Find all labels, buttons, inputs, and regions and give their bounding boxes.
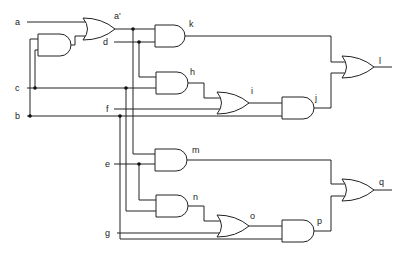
input-label-b: b <box>15 111 20 121</box>
and-gate-m <box>155 149 187 171</box>
gate-label-n: n <box>193 192 198 202</box>
and-gate-p <box>282 220 314 242</box>
wire-j-to-l <box>314 73 345 108</box>
wire-d-to-h <box>139 42 156 77</box>
and-gate-h <box>156 72 188 94</box>
gate-label-p: p <box>317 216 322 226</box>
or-gate-o <box>217 215 249 237</box>
wire-c-to-n <box>126 88 156 211</box>
gate-label-m: m <box>192 145 200 155</box>
or-gate-i <box>217 92 249 114</box>
wire-a-prime-out <box>115 29 155 154</box>
wire-h-to-i <box>188 83 222 98</box>
gate-label-h: h <box>190 67 195 77</box>
wire-bc-inputs <box>30 39 38 116</box>
and-gate-bc <box>38 34 71 56</box>
wire-n-to-o <box>188 206 222 221</box>
logic-circuit-diagram: a c b d f e g a' <box>0 0 408 256</box>
or-gate-a-prime <box>83 18 115 40</box>
gate-label-i: i <box>251 86 253 96</box>
and-gate-k <box>155 25 185 47</box>
gate-label-k: k <box>189 19 194 29</box>
input-label-g: g <box>105 228 110 238</box>
wire-b-to-p <box>120 116 282 239</box>
input-label-f: f <box>106 104 109 114</box>
gate-label-o: o <box>250 211 255 221</box>
and-gate-j <box>282 97 314 119</box>
input-label-e: e <box>105 159 110 169</box>
gate-label-q: q <box>379 177 384 187</box>
and-gate-n <box>156 195 188 217</box>
gate-label-l: l <box>379 56 381 66</box>
or-gate-l <box>342 56 374 78</box>
input-label-a: a <box>15 17 20 27</box>
input-label-c: c <box>15 83 20 93</box>
or-gate-q <box>342 179 374 201</box>
gate-label-j: j <box>314 93 317 103</box>
input-label-d: d <box>103 37 108 47</box>
wire-k-to-l <box>185 36 345 62</box>
wire-m-to-q <box>187 160 345 184</box>
wire-e-to-n <box>139 164 156 200</box>
gate-label-a-prime: a' <box>114 11 121 21</box>
